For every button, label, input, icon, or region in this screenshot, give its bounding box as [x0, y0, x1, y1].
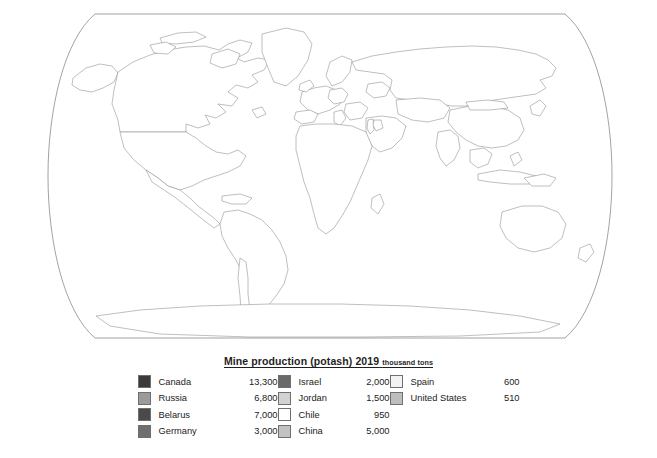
- legend-swatch-chile: [278, 408, 291, 421]
- legend-value-canada: 13,300: [240, 377, 278, 387]
- legend-swatch-jordan: [278, 392, 291, 405]
- legend-label-belarus: Belarus: [159, 410, 240, 420]
- map-legend: Mine production (potash) 2019 thousand t…: [0, 352, 657, 458]
- legend-swatch-china: [278, 425, 291, 438]
- legend-title: Mine production (potash) 2019 thousand t…: [0, 352, 657, 367]
- legend-item-germany: Germany 3,000: [138, 425, 278, 438]
- legend-label-canada: Canada: [159, 377, 240, 387]
- legend-swatch-spain: [390, 375, 403, 388]
- legend-label-jordan: Jordan: [299, 393, 356, 403]
- legend-value-russia: 6,800: [240, 393, 278, 403]
- legend-item-united-states: United States 510: [390, 392, 520, 405]
- legend-value-jordan: 1,500: [356, 393, 390, 403]
- legend-label-chile: Chile: [299, 410, 356, 420]
- legend-title-main: Mine production (potash) 2019: [224, 355, 379, 367]
- legend-title-unit: thousand tons: [382, 358, 433, 367]
- legend-label-russia: Russia: [159, 393, 240, 403]
- legend-value-china: 5,000: [356, 426, 390, 436]
- legend-value-spain: 600: [492, 377, 520, 387]
- legend-label-spain: Spain: [411, 377, 492, 387]
- legend-label-united-states: United States: [411, 393, 492, 403]
- legend-item-chile: Chile 950: [278, 408, 390, 421]
- legend-item-jordan: Jordan 1,500: [278, 392, 390, 405]
- legend-columns: Canada 13,300 Russia 6,800 Belarus 7,000…: [0, 375, 657, 438]
- legend-item-russia: Russia 6,800: [138, 392, 278, 405]
- legend-label-china: China: [299, 426, 356, 436]
- legend-swatch-canada: [138, 375, 151, 388]
- legend-swatch-belarus: [138, 408, 151, 421]
- legend-value-chile: 950: [356, 410, 390, 420]
- legend-item-israel: Israel 2,000: [278, 375, 390, 388]
- legend-column-1: Canada 13,300 Russia 6,800 Belarus 7,000…: [138, 375, 278, 438]
- legend-column-3: Spain 600 United States 510: [390, 375, 520, 438]
- legend-swatch-germany: [138, 425, 151, 438]
- legend-swatch-russia: [138, 392, 151, 405]
- legend-item-canada: Canada 13,300: [138, 375, 278, 388]
- world-map: [0, 0, 657, 352]
- legend-item-spain: Spain 600: [390, 375, 520, 388]
- legend-item-china: China 5,000: [278, 425, 390, 438]
- legend-value-germany: 3,000: [240, 426, 278, 436]
- legend-value-belarus: 7,000: [240, 410, 278, 420]
- legend-item-belarus: Belarus 7,000: [138, 408, 278, 421]
- world-map-svg: [0, 0, 657, 352]
- legend-swatch-israel: [278, 375, 291, 388]
- legend-swatch-united-states: [390, 392, 403, 405]
- legend-label-germany: Germany: [159, 426, 240, 436]
- legend-value-united-states: 510: [492, 393, 520, 403]
- legend-label-israel: Israel: [299, 377, 356, 387]
- legend-column-2: Israel 2,000 Jordan 1,500 Chile 950 Chin…: [278, 375, 390, 438]
- region-mongolia: [466, 100, 508, 110]
- legend-value-israel: 2,000: [356, 377, 390, 387]
